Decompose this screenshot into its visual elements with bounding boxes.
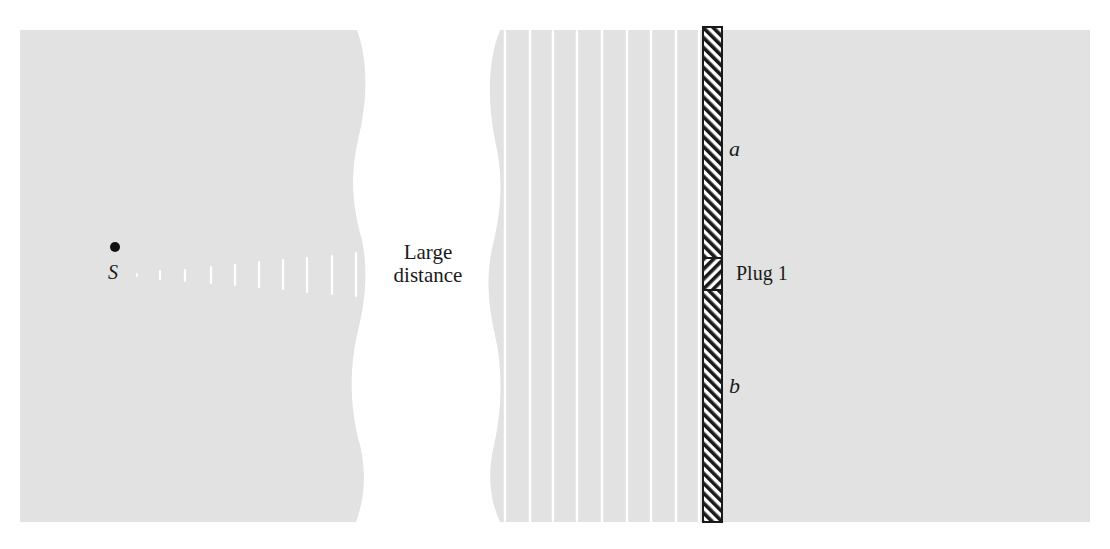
left-panel [20,30,365,522]
source-label: S [108,262,118,282]
source-point-icon [110,242,120,252]
large-distance-line-1: Large [368,241,488,264]
large-distance-line-2: distance [368,264,488,287]
large-distance-label: Large distance [368,241,488,287]
barrier-upper [703,27,722,258]
barrier-lower [703,290,722,522]
plug-1 [703,258,722,290]
right-panel [488,30,1090,522]
plug-label: Plug 1 [736,263,788,283]
wave-diagram [0,0,1110,549]
barrier-a-label: a [729,138,740,160]
barrier-b-label: b [729,375,740,397]
